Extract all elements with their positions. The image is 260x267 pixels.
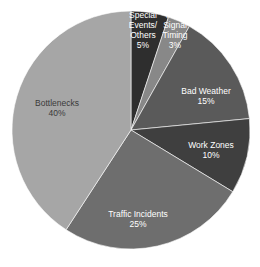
pie-chart: SpecialEvents/Others5%PoorSignalTiming3%… xyxy=(0,0,260,267)
